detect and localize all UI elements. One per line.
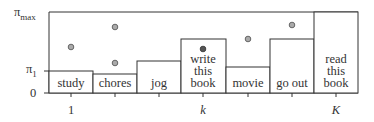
- x-label-K: K: [331, 103, 341, 117]
- bar-label-study: study: [57, 76, 85, 90]
- y-label-zero: 0: [30, 86, 36, 100]
- y-label-pi-max: πmax: [14, 5, 36, 22]
- bar-label-movie: movie: [232, 76, 264, 90]
- bar-label-chores: chores: [99, 76, 132, 90]
- point-chores-low: [112, 60, 118, 66]
- point-movie: [245, 36, 251, 42]
- bar-label-book-2: book: [324, 76, 350, 90]
- point-study: [68, 44, 74, 50]
- x-ticks: [71, 93, 336, 97]
- point-go-out: [289, 22, 295, 28]
- y-label-pi-1: π1: [26, 62, 37, 79]
- x-label-k: k: [200, 103, 206, 117]
- bar-label-book: book: [191, 76, 217, 90]
- bar-label-go-out: go out: [276, 76, 308, 90]
- bar-label-jog: jog: [150, 76, 168, 90]
- diagram: πmax π1 0 study chores jog write this bo…: [0, 0, 374, 122]
- point-chores-high: [112, 24, 118, 30]
- point-write-this-book: [200, 46, 206, 52]
- x-label-1: 1: [68, 103, 74, 117]
